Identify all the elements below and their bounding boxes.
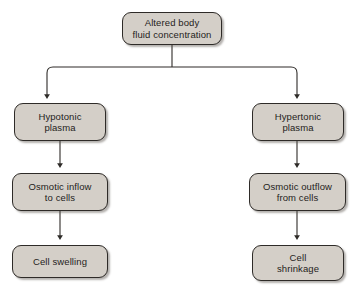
node-altered-body-fluid-concentration: Altered body fluid concentration — [122, 12, 222, 45]
node-osmotic-inflow-to-cells: Osmotic inflow to cells — [12, 173, 108, 211]
edge-split-bar-left — [47, 67, 172, 97]
node-hypotonic-plasma: Hypotonic plasma — [14, 103, 106, 141]
node-label: Cell swelling — [31, 256, 89, 268]
node-label: Hypotonic plasma — [36, 111, 83, 134]
flowchart-figure: Altered body fluid concentration Hypoton… — [0, 0, 350, 293]
node-osmotic-outflow-from-cells: Osmotic outflow from cells — [249, 173, 346, 211]
node-label: Cell shrinkage — [275, 252, 321, 275]
figure-caption — [8, 284, 342, 293]
node-label: Osmotic inflow to cells — [26, 181, 93, 204]
node-label: Altered body fluid concentration — [130, 17, 213, 40]
node-cell-swelling: Cell swelling — [12, 245, 108, 278]
edge-split-bar-right — [172, 67, 297, 97]
node-hypertonic-plasma: Hypertonic plasma — [252, 103, 344, 141]
node-cell-shrinkage: Cell shrinkage — [252, 245, 344, 281]
node-label: Osmotic outflow from cells — [261, 181, 334, 204]
node-label: Hypertonic plasma — [273, 111, 323, 134]
